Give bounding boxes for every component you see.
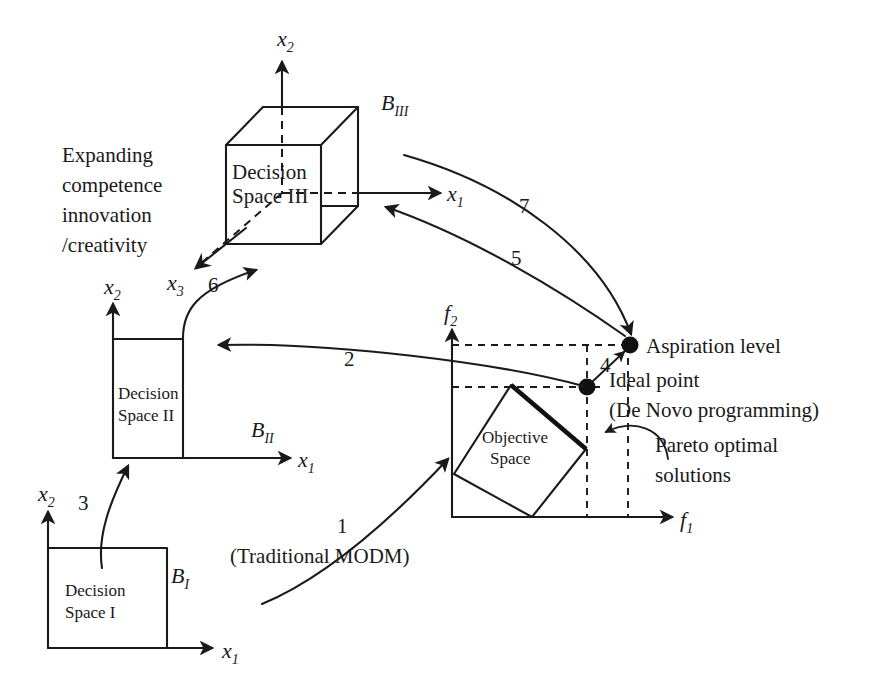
- pareto-label-line1: Pareto optimal: [655, 433, 778, 457]
- decision-space-1-group: x2 x1 BI Decision Space I: [37, 481, 239, 667]
- pareto-label-line2: solutions: [655, 463, 731, 487]
- cube-edge-br: [321, 206, 358, 244]
- decision-space-2-label-line2: Space II: [118, 406, 175, 425]
- right-annotations: Aspiration level Ideal point (De Novo pr…: [609, 334, 819, 487]
- decision-space-1-label-line2: Space I: [65, 603, 116, 622]
- traditional-modm-label: (Traditional MODM): [230, 544, 409, 568]
- axis-label-x3-cube: x3: [166, 270, 184, 299]
- axis-x3-cube: [196, 228, 246, 268]
- step-label-2: 2: [344, 347, 355, 371]
- boundary-label-b3: BIII: [381, 90, 410, 119]
- arrow-step-3: [101, 466, 128, 568]
- arrow-step-2: [219, 345, 583, 386]
- aspiration-level-marker: [622, 337, 639, 354]
- expanding-competence-annotation: Expanding competence innovation /creativ…: [62, 143, 162, 257]
- de-novo-programming-diagram: x2 x1 x3 BIII Decision Space III Expandi…: [0, 0, 894, 698]
- step-label-3: 3: [78, 491, 89, 515]
- axis-label-x1-space1: x1: [221, 638, 239, 667]
- diagram-canvas: x2 x1 x3 BIII Decision Space III Expandi…: [0, 0, 894, 698]
- aspiration-level-label: Aspiration level: [646, 334, 781, 358]
- decision-space-1-label-line1: Decision: [65, 581, 126, 600]
- axis-label-x1-cube: x1: [446, 181, 464, 210]
- axis-label-x2-cube: x2: [276, 26, 294, 55]
- axis-label-f1: f1: [680, 507, 693, 536]
- arrow-step-5: [386, 207, 625, 336]
- arrow-step-7: [404, 155, 631, 334]
- cube-edge-tr: [321, 107, 358, 145]
- axis-label-x2-space2: x2: [103, 274, 121, 303]
- objective-space-label-line1: Objective: [482, 428, 548, 447]
- decision-space-2-label-line1: Decision: [118, 384, 179, 403]
- flow-arrows: 1 (Traditional MODM) 2 3 5 6 7: [78, 155, 631, 604]
- decision-space-2-group: x2 x1 BII Decision Space II: [103, 274, 315, 476]
- expanding-line4: /creativity: [62, 233, 148, 257]
- expanding-line3: innovation: [62, 203, 152, 227]
- cube-edge-tl: [226, 107, 263, 145]
- ideal-point-label: Ideal point: [609, 368, 700, 392]
- expanding-line1: Expanding: [62, 143, 153, 167]
- step-label-5: 5: [511, 246, 522, 270]
- objective-space-label-line2: Space: [490, 449, 531, 468]
- de-novo-label: (De Novo programming): [609, 398, 819, 422]
- axis-label-f2: f2: [444, 300, 457, 329]
- arrow-step-1: [262, 459, 448, 604]
- boundary-label-b1: BI: [171, 563, 190, 592]
- decision-space-3-group: x2 x1 x3 BIII Decision Space III: [166, 26, 464, 299]
- axis-label-x1-space2: x1: [297, 447, 315, 476]
- expanding-line2: competence: [62, 173, 162, 197]
- decision-space-3-label-line2: Space III: [232, 184, 308, 208]
- step-label-6: 6: [208, 273, 219, 297]
- axis-label-x2-space1: x2: [37, 481, 55, 510]
- step-label-7: 7: [519, 194, 530, 218]
- decision-space-3-label-line1: Decision: [232, 160, 307, 184]
- arrow-step-6: [183, 270, 256, 338]
- step-label-1: 1: [337, 514, 348, 538]
- boundary-label-b2: BII: [251, 417, 275, 446]
